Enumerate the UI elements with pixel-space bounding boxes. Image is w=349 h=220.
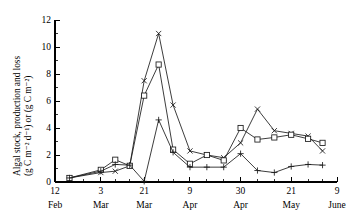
series-loss	[66, 117, 325, 185]
data-point-square-marker	[272, 135, 277, 140]
x-tick-month-label: Apr	[233, 200, 249, 210]
series-group	[66, 31, 325, 185]
data-point-square-marker	[320, 140, 325, 145]
x-tick-month-label: June	[328, 200, 345, 210]
series-algal-stock	[67, 31, 325, 181]
data-point-square-marker	[238, 125, 243, 130]
series-production	[67, 62, 325, 181]
y-tick-label: 4	[46, 123, 51, 133]
data-point-square-marker	[156, 62, 161, 67]
tick-labels-group: 02468101212Feb3Mar21Mar9Apr30Apr21May9Ju…	[42, 15, 346, 210]
data-point-plus-marker	[305, 161, 311, 167]
y-tick-label: 6	[46, 96, 51, 106]
x-tick-month-label: Mar	[93, 200, 110, 210]
data-point-cross-marker	[238, 140, 243, 145]
series-line-production	[69, 65, 322, 178]
x-tick-month-label: May	[282, 200, 300, 210]
x-tick-day-label: 9	[188, 186, 193, 196]
x-tick-day-label: 30	[236, 186, 246, 196]
series-line-algal-stock	[69, 34, 322, 178]
data-point-plus-marker	[156, 117, 162, 123]
data-point-square-marker	[289, 132, 294, 137]
x-tick-day-label: 9	[335, 186, 340, 196]
x-tick-day-label: 21	[139, 186, 149, 196]
y-tick-label: 2	[46, 150, 51, 160]
x-tick-month-label: Apr	[183, 200, 199, 210]
x-tick-day-label: 12	[50, 186, 60, 196]
data-point-plus-marker	[288, 163, 294, 169]
x-tick-month-label: Mar	[136, 200, 153, 210]
data-point-plus-marker	[319, 162, 325, 168]
y-tick-label: 10	[42, 42, 52, 52]
data-point-plus-marker	[271, 169, 277, 175]
data-point-plus-marker	[204, 164, 210, 170]
data-point-square-marker	[142, 93, 147, 98]
x-tick-day-label: 3	[98, 186, 103, 196]
axes-group	[55, 20, 337, 182]
plot-area: 02468101212Feb3Mar21Mar9Apr30Apr21May9Ju…	[0, 0, 349, 220]
data-point-square-marker	[255, 137, 260, 142]
data-point-cross-marker	[320, 148, 325, 153]
ticks-group	[55, 20, 337, 182]
data-point-cross-marker	[187, 148, 192, 153]
y-tick-label: 8	[46, 69, 51, 79]
y-tick-label: 12	[42, 15, 52, 25]
algal-dynamics-chart: Algal stock, production and loss (g C m⁻…	[0, 0, 349, 220]
data-point-square-marker	[204, 152, 209, 157]
data-point-square-marker	[305, 136, 310, 141]
data-point-cross-marker	[255, 107, 260, 112]
x-tick-day-label: 21	[286, 186, 296, 196]
x-tick-month-label: Feb	[48, 200, 63, 210]
data-point-square-marker	[221, 158, 226, 163]
